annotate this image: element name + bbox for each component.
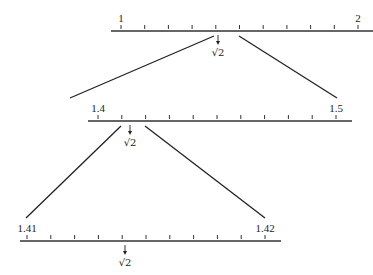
level-3-number-line: 1.411.42√2 [17, 222, 281, 268]
arrowhead-icon [128, 131, 132, 135]
zoom-connector-line [239, 36, 337, 98]
start-label: 1.41 [17, 222, 36, 234]
number-line-zoom-diagram: 12√21.41.5√21.411.42√2 [0, 0, 373, 275]
level-1-number-line: 12√2 [111, 12, 373, 58]
level-2-number-line: 1.41.5√2 [88, 102, 352, 148]
sqrt2-label: √2 [119, 257, 132, 268]
arrowhead-icon [216, 41, 220, 45]
zoom-connector-line [145, 126, 265, 218]
start-label: 1.4 [91, 102, 105, 114]
sqrt2-label: √2 [212, 47, 225, 58]
start-label: 1 [118, 12, 124, 24]
arrowhead-icon [123, 251, 127, 255]
end-label: 1.5 [329, 102, 343, 114]
end-label: 1.42 [255, 222, 274, 234]
zoom-connector-line [70, 36, 214, 98]
end-label: 2 [355, 12, 361, 24]
sqrt2-label: √2 [124, 137, 137, 148]
zoom-connector-line [26, 126, 121, 218]
